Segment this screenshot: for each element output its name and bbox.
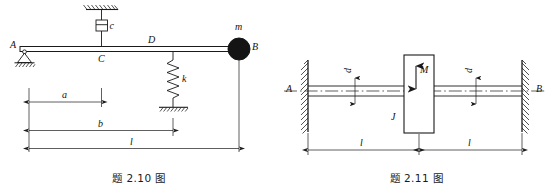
label-point-c: C: [98, 53, 105, 64]
beam-ab: [20, 47, 242, 52]
spring-element: [167, 52, 179, 108]
label-point-a: A: [9, 39, 17, 50]
label-mass-m: m: [235, 21, 242, 32]
dimension-extension-lines-right: [308, 133, 522, 155]
label-point-a-right: A: [285, 83, 293, 94]
label-spring-k: k: [182, 73, 187, 84]
damper-ceiling-support: [84, 5, 119, 10]
figure-2-10-canvas: c A C D B: [0, 0, 278, 191]
damper-element: [96, 10, 108, 48]
label-point-b-right: B: [536, 83, 542, 94]
label-dim-l-right: l: [468, 137, 471, 148]
dimension-extension-lines: [29, 60, 239, 152]
spring-ground-support: [159, 107, 188, 111]
figure-2-10-caption: 题 2.10 图: [0, 170, 278, 185]
damper-label-c: c: [110, 20, 115, 31]
fixed-wall-a: [301, 60, 308, 134]
fixed-wall-b: [522, 60, 529, 134]
label-point-d: D: [147, 34, 156, 45]
figure-2-11-caption: 题 2.11 图: [278, 170, 555, 185]
label-dim-l: l: [130, 136, 133, 147]
label-diameter-d-left: d: [342, 67, 353, 73]
figure-2-11-canvas: A: [278, 0, 555, 191]
label-inertia-j: J: [391, 111, 396, 122]
label-dim-b: b: [98, 118, 103, 129]
label-point-b: B: [252, 41, 258, 52]
label-diameter-d-right: d: [463, 67, 474, 73]
figure-page: c A C D B: [0, 0, 555, 191]
lumped-mass-m: [228, 38, 250, 60]
label-dim-a: a: [62, 89, 67, 100]
pin-support-a: [15, 50, 36, 67]
rotor-disk: [404, 55, 434, 133]
figure-2-10: c A C D B: [0, 0, 278, 191]
label-torque-m: M: [419, 64, 429, 75]
figure-2-11: A: [278, 0, 555, 191]
label-dim-l-left: l: [360, 137, 363, 148]
